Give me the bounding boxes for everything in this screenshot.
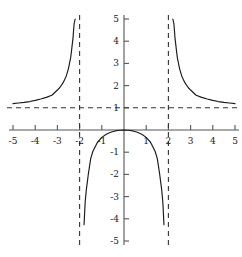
y-tick-label: -3	[110, 192, 119, 201]
y-tick-label: 4	[113, 37, 119, 46]
y-tick-label: 5	[113, 15, 119, 24]
x-tick-label: -1	[97, 137, 106, 146]
y-tick-label: -5	[110, 237, 119, 246]
plot-canvas	[0, 0, 242, 257]
curve-right-branch	[173, 19, 235, 104]
x-tick-label: 3	[188, 137, 194, 146]
y-tick-label: -1	[110, 148, 119, 157]
y-tick-label: 2	[113, 81, 119, 90]
x-tick-label: -3	[53, 137, 62, 146]
x-tick-label: -5	[9, 137, 18, 146]
y-tick-label: -4	[110, 214, 119, 223]
y-tick-label: 1	[113, 103, 119, 112]
x-tick-label: 5	[232, 137, 238, 146]
x-tick-label: -2	[75, 137, 84, 146]
x-tick-label: -4	[31, 137, 40, 146]
x-tick-label: 4	[210, 137, 216, 146]
y-tick-label: 3	[113, 59, 119, 68]
x-tick-label: 2	[166, 137, 172, 146]
function-graph-figure: -5-4-3-2-112345-5-4-3-2-112345	[0, 0, 242, 257]
x-tick-label: 1	[143, 137, 149, 146]
curve-left-branch	[13, 19, 75, 104]
y-tick-label: -2	[110, 170, 119, 179]
